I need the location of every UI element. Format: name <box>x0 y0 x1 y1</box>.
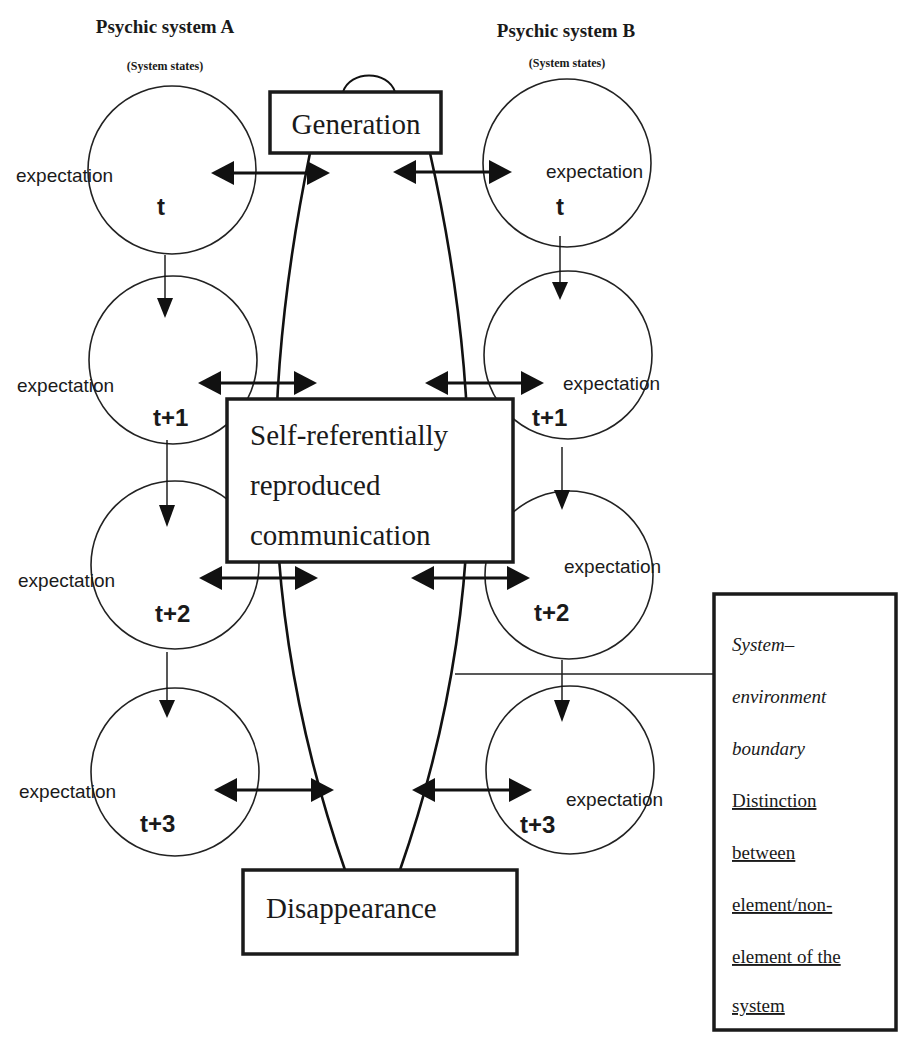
boundary-note-line-8: system <box>732 995 785 1016</box>
generation-label: Generation <box>292 108 421 140</box>
time-label: t <box>157 193 165 220</box>
expectation-label: expectation <box>17 375 114 396</box>
arrow-down-icon <box>554 700 570 722</box>
expectation-label: expectation <box>19 781 116 802</box>
boundary-note-line-3: boundary <box>732 738 805 759</box>
expectation-label: expectation <box>564 556 661 577</box>
communication-systems-diagram: Psychic system A (System states) Psychic… <box>0 0 911 1056</box>
arrow-down-icon <box>159 505 175 527</box>
generation-box: Generation <box>270 92 441 153</box>
time-label: t+2 <box>155 600 190 627</box>
system-b-subtitle: (System states) <box>529 56 605 70</box>
boundary-note-line-4: Distinction <box>732 790 817 811</box>
arrow-down-icon <box>157 298 173 318</box>
communication-core-box: Self-referentially reproduced communicat… <box>227 399 513 562</box>
system-a-subtitle: (System states) <box>127 59 203 73</box>
expectation-label: expectation <box>16 165 113 186</box>
time-label: t+1 <box>153 404 188 431</box>
system-a-title: Psychic system A <box>96 16 235 37</box>
time-label: t+2 <box>534 599 569 626</box>
arrow-down-icon <box>159 700 175 718</box>
boundary-note-line-1: System– <box>732 634 795 655</box>
expectation-label: expectation <box>18 570 115 591</box>
disappearance-box: Disappearance <box>243 870 517 954</box>
double-arrow-icon <box>425 371 544 395</box>
double-arrow-icon <box>412 778 532 802</box>
time-label: t <box>556 193 564 220</box>
communication-core-line-2: reproduced <box>250 469 381 501</box>
expectation-label: expectation <box>563 373 660 394</box>
double-arrow-icon <box>211 161 330 185</box>
expectation-label: expectation <box>566 789 663 810</box>
double-arrow-icon <box>411 566 530 590</box>
disappearance-label: Disappearance <box>266 892 437 924</box>
expectation-label: expectation <box>546 161 643 182</box>
communication-core-line-1: Self-referentially <box>250 419 449 451</box>
system-b-title: Psychic system B <box>497 20 636 41</box>
system-a-labels: expectation t expectation t+1 expectatio… <box>16 165 190 837</box>
boundary-note-box: System– environment boundary Distinction… <box>714 594 896 1030</box>
arrow-down-icon <box>552 282 568 300</box>
arrow-down-icon <box>554 490 570 510</box>
system-b-state-t3 <box>486 686 654 854</box>
time-label: t+1 <box>532 404 567 431</box>
communication-core-line-3: communication <box>250 519 431 551</box>
double-arrow-icon <box>214 778 334 802</box>
generation-top-arc <box>343 76 395 93</box>
system-b-labels: expectation t expectation t+1 expectatio… <box>520 161 663 838</box>
time-label: t+3 <box>140 810 175 837</box>
double-arrow-icon <box>198 371 317 395</box>
system-b-transitions <box>552 236 570 722</box>
boundary-note-line-6: element/non- <box>732 894 832 915</box>
time-label: t+3 <box>520 811 555 838</box>
boundary-note-line-2: environment <box>732 686 827 707</box>
boundary-note-line-7: element of the <box>732 946 841 967</box>
double-arrow-icon <box>393 160 512 184</box>
boundary-note-line-5: between <box>732 842 796 863</box>
